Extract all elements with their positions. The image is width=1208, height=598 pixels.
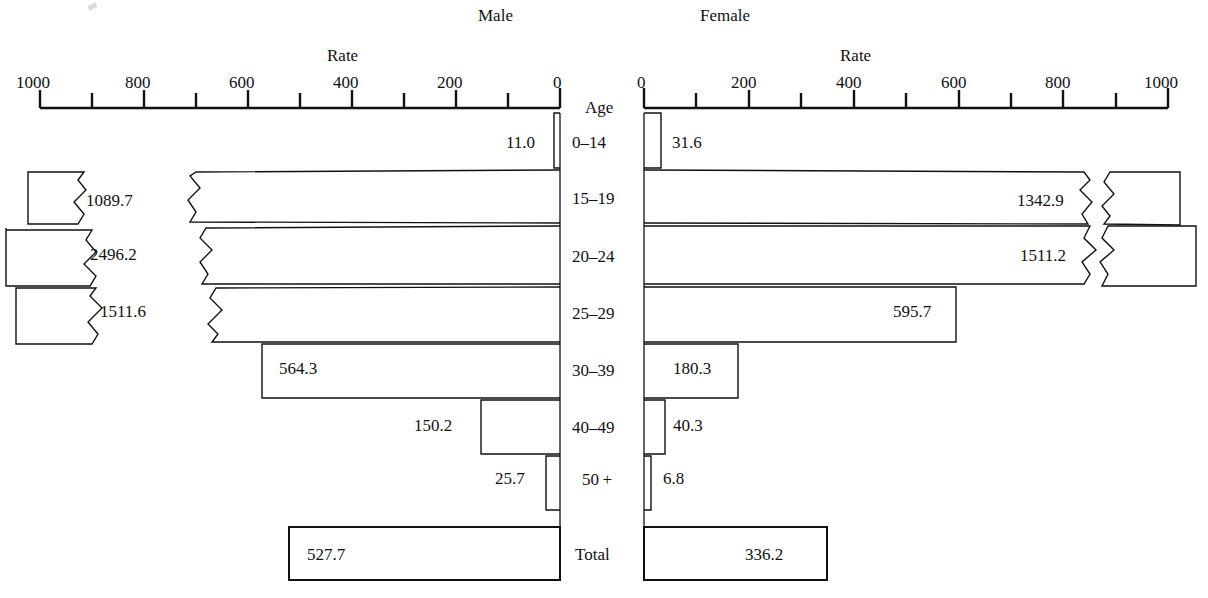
female-value-20-24: 1511.2	[1020, 247, 1066, 264]
male-axis-ticks	[40, 88, 560, 108]
female-bar-0-14	[644, 113, 661, 168]
male-tick-200: 200	[437, 74, 463, 91]
male-tick-1000: 1000	[16, 74, 50, 91]
chart-vector-layer	[0, 0, 1208, 598]
female-value-0-14: 31.6	[672, 134, 702, 151]
male-tick-600: 600	[229, 74, 255, 91]
male-value-15-19: 1089.7	[86, 192, 133, 209]
male-tick-400: 400	[333, 74, 359, 91]
female-tick-200: 200	[731, 74, 757, 91]
age-label-30-39: 30–39	[572, 362, 615, 379]
female-panel-title: Female	[700, 7, 750, 24]
female-bar-20-24	[644, 226, 1196, 286]
age-column-header: Age	[585, 99, 613, 116]
age-label-0-14: 0–14	[572, 134, 606, 151]
male-bar-0-14	[554, 113, 560, 168]
male-value-25-29: 1511.6	[100, 303, 146, 320]
male-tick-800: 800	[125, 74, 151, 91]
female-value-30-39: 180.3	[673, 360, 711, 377]
male-value-20-24: 2496.2	[90, 246, 137, 263]
age-label-15-19: 15–19	[572, 190, 615, 207]
age-label-20-24: 20–24	[572, 248, 615, 265]
age-label-50-plus: 50 +	[582, 471, 612, 488]
female-tick-400: 400	[836, 74, 862, 91]
male-tick-0: 0	[553, 74, 562, 91]
female-value-15-19: 1342.9	[1017, 192, 1064, 209]
female-tick-800: 800	[1045, 74, 1071, 91]
female-tick-0: 0	[637, 74, 646, 91]
male-bar-25-29	[16, 287, 560, 344]
female-bar-total	[644, 527, 827, 580]
male-bar-40-49	[481, 400, 560, 454]
male-value-30-39: 564.3	[279, 360, 317, 377]
female-value-total: 336.2	[745, 546, 783, 563]
female-rate-axis-title: Rate	[840, 47, 871, 64]
male-panel-title: Male	[478, 7, 513, 24]
female-bar-15-19	[644, 170, 1180, 225]
female-axis-ticks	[644, 88, 1168, 108]
female-value-40-49: 40.3	[673, 417, 703, 434]
male-rate-axis-title: Rate	[327, 47, 358, 64]
age-label-40-49: 40–49	[572, 419, 615, 436]
female-bar-50-plus	[644, 456, 651, 510]
male-value-0-14: 11.0	[506, 134, 535, 151]
female-value-25-29: 595.7	[893, 303, 931, 320]
female-value-50-plus: 6.8	[663, 470, 684, 487]
male-bar-50-plus	[546, 456, 560, 510]
male-value-40-49: 150.2	[414, 417, 452, 434]
female-tick-600: 600	[941, 74, 967, 91]
male-value-50-plus: 25.7	[495, 470, 525, 487]
female-bar-40-49	[644, 400, 665, 454]
female-tick-1000: 1000	[1144, 74, 1178, 91]
pyramid-chart: Male Female Rate Rate Age 1000 800 600 4…	[0, 0, 1208, 598]
age-label-total: Total	[575, 546, 610, 563]
age-label-25-29: 25–29	[572, 305, 615, 322]
male-value-total: 527.7	[307, 546, 345, 563]
